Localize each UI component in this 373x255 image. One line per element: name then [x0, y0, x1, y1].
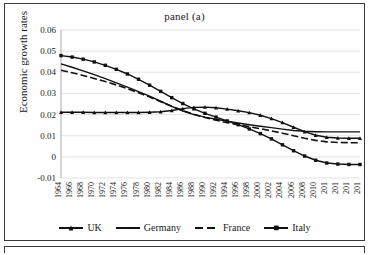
legend-swatch-france — [194, 223, 220, 233]
x-tick-label: 201 — [320, 182, 329, 194]
x-tick-label: 2010 — [309, 182, 318, 198]
series-marker-italy — [347, 163, 350, 166]
x-tick-label: 1994 — [220, 182, 229, 198]
series-line-italy — [61, 56, 360, 165]
series-marker-italy — [93, 60, 96, 63]
x-tick-label: 2008 — [298, 182, 307, 198]
legend-label: France — [223, 222, 250, 233]
series-marker-italy — [214, 115, 217, 118]
y-tick-label: 0.01 — [40, 131, 56, 141]
series-marker-italy — [70, 55, 73, 58]
x-tick-label: 1974 — [109, 182, 118, 198]
series-marker-italy — [270, 137, 273, 140]
x-tick-label: 1986 — [176, 182, 185, 198]
bottom-frame-divider — [4, 246, 365, 253]
legend-label: Germany — [144, 222, 181, 233]
x-tick-label: 2002 — [264, 182, 273, 198]
legend-label: Italy — [292, 222, 310, 233]
series-line-germany — [61, 64, 360, 132]
series-marker-italy — [325, 161, 328, 164]
series-marker-italy — [336, 162, 339, 165]
series-marker-italy — [225, 119, 228, 122]
x-tick-label: 1966 — [65, 182, 74, 198]
x-tick-label: 1964 — [54, 182, 63, 198]
series-marker-italy — [248, 127, 251, 130]
series-marker-italy — [159, 90, 162, 93]
x-tick-label: 201 — [331, 182, 340, 194]
x-tick-label: 1972 — [98, 182, 107, 198]
legend-item-uk[interactable]: UK — [58, 222, 101, 233]
legend-item-france[interactable]: France — [194, 222, 250, 233]
x-tick-label: 2000 — [253, 182, 262, 198]
x-tick-label: 1976 — [120, 182, 129, 198]
x-tick-label: 1982 — [154, 182, 163, 198]
y-tick-label: 0.02 — [40, 110, 56, 120]
series-marker-italy — [292, 149, 295, 152]
series-marker-italy — [203, 112, 206, 115]
chart-legend: UKGermanyFranceItaly — [5, 222, 364, 233]
x-tick-label: 1970 — [87, 182, 96, 198]
chart-title: panel (a) — [5, 10, 364, 22]
y-tick-label: 0.05 — [40, 46, 56, 56]
series-marker-italy — [303, 154, 306, 157]
series-marker-italy — [181, 102, 184, 105]
series-marker-italy — [236, 123, 239, 126]
x-tick-label: 201 — [342, 182, 351, 194]
x-tick-label: 1992 — [209, 182, 218, 198]
y-tick-label: 0.03 — [40, 88, 56, 98]
x-tick-label: 1988 — [187, 182, 196, 198]
series-marker-italy — [104, 64, 107, 67]
legend-swatch-germany — [115, 223, 141, 233]
series-marker-italy — [259, 132, 262, 135]
x-tick-label: 1998 — [242, 182, 251, 198]
y-tick-label: 0.04 — [40, 67, 56, 77]
x-tick-label: 2004 — [275, 182, 284, 198]
series-marker-italy — [358, 163, 361, 166]
line-chart: 0.060.050.040.030.020.010-0.011964196619… — [27, 24, 364, 220]
series-marker-italy — [115, 68, 118, 71]
series-marker-italy — [148, 83, 151, 86]
legend-item-italy[interactable]: Italy — [263, 222, 310, 233]
x-tick-label: 1990 — [198, 182, 207, 198]
x-tick-label: 1980 — [143, 182, 152, 198]
series-marker-italy — [170, 96, 173, 99]
series-marker-italy — [314, 159, 317, 162]
series-marker-italy — [137, 78, 140, 81]
series-marker-italy — [192, 107, 195, 110]
x-tick-label: 1978 — [132, 182, 141, 198]
x-tick-label: 1968 — [76, 182, 85, 198]
y-tick-label: 0 — [52, 152, 57, 162]
series-marker-italy — [281, 143, 284, 146]
legend-item-germany[interactable]: Germany — [115, 222, 181, 233]
series-marker-italy — [126, 72, 129, 75]
figure-panel-a: panel (a) Economic growth rates 0.060.05… — [4, 3, 365, 241]
x-tick-label: 1996 — [231, 182, 240, 198]
series-marker-italy — [59, 54, 62, 57]
x-tick-label: 2006 — [287, 182, 296, 198]
y-tick-label: 0.06 — [40, 25, 56, 35]
legend-swatch-uk — [58, 223, 84, 233]
legend-swatch-italy — [263, 223, 289, 233]
y-tick-label: -0.01 — [37, 173, 56, 183]
series-marker-italy — [81, 57, 84, 60]
legend-label: UK — [87, 222, 101, 233]
x-tick-label: 201 — [353, 182, 362, 194]
x-tick-label: 1984 — [165, 182, 174, 198]
plot-area: 0.060.050.040.030.020.010-0.011964196619… — [27, 24, 364, 220]
